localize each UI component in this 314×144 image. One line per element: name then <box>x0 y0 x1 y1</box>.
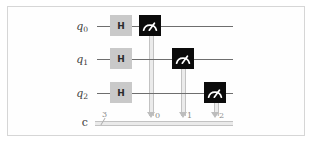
qubit-label-q2: q2 <box>66 88 88 99</box>
classical-bit-index-2: 2 <box>219 112 224 120</box>
measure-arrow-q2 <box>211 112 219 118</box>
screenshot-root: q0 H q1 H <box>0 0 314 144</box>
measurement-meter-icon <box>142 19 158 33</box>
classical-bit-index-0: 0 <box>155 112 160 120</box>
hadamard-gate-label: H <box>117 21 125 31</box>
hadamard-gate-label: H <box>117 54 125 64</box>
classical-wire <box>95 121 233 126</box>
measure-gate-q2[interactable] <box>204 82 226 103</box>
classical-bit-index-1: 1 <box>187 112 192 120</box>
qubit-label-q1: q1 <box>66 54 88 65</box>
measurement-meter-icon <box>207 86 223 100</box>
measure-gate-q1[interactable] <box>172 48 194 69</box>
classical-register-label: c <box>66 117 88 128</box>
measure-connector-q0 <box>149 36 154 116</box>
hadamard-gate-q1[interactable]: H <box>110 48 132 69</box>
qubit-label-q0: q0 <box>66 21 88 32</box>
quantum-circuit: q0 H q1 H <box>0 0 314 144</box>
hadamard-gate-q0[interactable]: H <box>110 15 132 36</box>
hadamard-gate-label: H <box>117 88 125 98</box>
measure-gate-q0[interactable] <box>139 15 161 36</box>
qubit-lead-q0 <box>97 26 109 27</box>
qubit-lead-q1 <box>97 59 109 60</box>
qubit-lead-q2 <box>97 93 109 94</box>
hadamard-gate-q2[interactable]: H <box>110 82 132 103</box>
measure-arrow-q1 <box>179 112 187 118</box>
measure-arrow-q0 <box>147 112 155 118</box>
measurement-meter-icon <box>175 52 191 66</box>
classical-register-size: 3 <box>102 111 107 119</box>
